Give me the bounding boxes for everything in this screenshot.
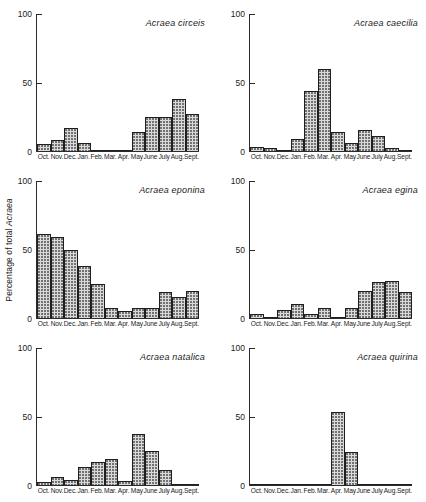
plot-area: 100500Oct.Nov.Dec.Jan.Feb.Mar.Apr.MayJun… bbox=[36, 348, 199, 486]
bar bbox=[331, 317, 345, 318]
bar bbox=[186, 291, 200, 318]
bar bbox=[345, 452, 359, 485]
bar bbox=[385, 281, 399, 318]
bar bbox=[358, 291, 372, 318]
bar-series bbox=[250, 14, 412, 151]
x-tick-label: Dec. bbox=[64, 321, 77, 328]
x-tick-label: June bbox=[357, 488, 371, 495]
y-tick-label-100: 100 bbox=[18, 177, 32, 186]
bar bbox=[186, 114, 200, 151]
bar bbox=[118, 311, 132, 318]
bar bbox=[159, 117, 173, 151]
x-tick-label: Jan. bbox=[290, 154, 303, 161]
x-tick-label: May bbox=[343, 154, 356, 161]
bar bbox=[358, 130, 372, 151]
x-axis-line bbox=[36, 318, 199, 319]
bar bbox=[132, 132, 146, 151]
x-axis-line bbox=[36, 485, 199, 486]
bar bbox=[385, 484, 399, 485]
bar bbox=[37, 482, 51, 485]
bar bbox=[291, 139, 305, 151]
x-tick-label: Aug. bbox=[171, 488, 184, 495]
x-tick-label: Oct. bbox=[250, 488, 263, 495]
bar bbox=[78, 467, 92, 485]
y-tick-label-50: 50 bbox=[236, 413, 245, 422]
x-tick-label: Dec. bbox=[64, 154, 77, 161]
y-tick-label-50: 50 bbox=[23, 246, 32, 255]
bar bbox=[372, 484, 386, 485]
y-tick-label-100: 100 bbox=[231, 344, 245, 353]
y-tick-label-0: 0 bbox=[27, 315, 32, 324]
bar bbox=[331, 412, 345, 485]
x-tick-label: Nov. bbox=[50, 488, 63, 495]
x-tick-label: Jan. bbox=[77, 488, 90, 495]
bar bbox=[277, 310, 291, 318]
bar bbox=[250, 484, 264, 485]
bar bbox=[277, 150, 291, 151]
x-axis-labels: Oct.Nov.Dec.Jan.Feb.Mar.Apr.MayJuneJulyA… bbox=[37, 488, 199, 495]
x-tick-label: Feb. bbox=[303, 488, 316, 495]
x-tick-label: Oct. bbox=[37, 154, 50, 161]
x-tick-label: Mar. bbox=[104, 488, 117, 495]
bar bbox=[105, 308, 119, 318]
x-tick-label: May bbox=[130, 488, 143, 495]
bar bbox=[145, 308, 159, 318]
x-tick-label: Apr. bbox=[117, 321, 130, 328]
x-tick-label: Sept. bbox=[397, 154, 412, 161]
bar bbox=[159, 470, 173, 485]
bar bbox=[318, 484, 332, 485]
x-tick-label: Jan. bbox=[290, 488, 303, 495]
bar bbox=[37, 234, 51, 318]
x-tick-label: Dec. bbox=[64, 488, 77, 495]
x-tick-label: June bbox=[357, 154, 371, 161]
bar bbox=[372, 282, 386, 318]
plot-area: 100500Oct.Nov.Dec.Jan.Feb.Mar.Apr.MayJun… bbox=[249, 181, 412, 319]
bar bbox=[145, 451, 159, 485]
bar-series bbox=[37, 181, 199, 318]
plot-area: 100500Oct.Nov.Dec.Jan.Feb.Mar.Apr.MayJun… bbox=[36, 181, 199, 319]
bar bbox=[172, 484, 186, 485]
x-tick-label: Sept. bbox=[184, 154, 199, 161]
x-tick-label: Jan. bbox=[77, 154, 90, 161]
bar bbox=[385, 148, 399, 151]
x-tick-label: Aug. bbox=[171, 321, 184, 328]
bar bbox=[304, 91, 318, 151]
bar bbox=[345, 143, 359, 151]
bar bbox=[318, 308, 332, 318]
panel-acraea-natalica: Acraea natalica100500Oct.Nov.Dec.Jan.Feb… bbox=[0, 334, 213, 501]
x-tick-label: Nov. bbox=[50, 154, 63, 161]
bar bbox=[64, 250, 78, 319]
x-tick-label: June bbox=[144, 154, 158, 161]
x-axis-labels: Oct.Nov.Dec.Jan.Feb.Mar.Apr.MayJuneJulyA… bbox=[250, 488, 412, 495]
bar bbox=[345, 308, 359, 318]
bar bbox=[105, 459, 119, 485]
x-tick-label: Dec. bbox=[277, 154, 290, 161]
x-tick-label: May bbox=[343, 488, 356, 495]
x-tick-label: Nov. bbox=[263, 488, 276, 495]
x-tick-label: Sept. bbox=[184, 321, 199, 328]
x-tick-label: Feb. bbox=[303, 321, 316, 328]
panel-acraea-quirina: Acraea quirina100500Oct.Nov.Dec.Jan.Feb.… bbox=[213, 334, 426, 501]
x-tick-label: Dec. bbox=[277, 321, 290, 328]
bar-series bbox=[37, 348, 199, 485]
x-tick-label: Mar. bbox=[317, 488, 330, 495]
x-tick-label: Jan. bbox=[77, 321, 90, 328]
x-tick-label: Apr. bbox=[117, 154, 130, 161]
x-tick-label: Nov. bbox=[263, 154, 276, 161]
bar bbox=[91, 284, 105, 318]
y-tick-label-100: 100 bbox=[231, 177, 245, 186]
bar-series bbox=[250, 348, 412, 485]
x-tick-label: June bbox=[144, 321, 158, 328]
bar bbox=[250, 147, 264, 151]
bar bbox=[399, 150, 413, 151]
x-axis-line bbox=[36, 151, 199, 152]
x-tick-label: Aug. bbox=[384, 154, 397, 161]
y-tick-label-50: 50 bbox=[236, 79, 245, 88]
y-tick-label-50: 50 bbox=[23, 79, 32, 88]
panel-acraea-eponina: Acraea eponina100500Oct.Nov.Dec.Jan.Feb.… bbox=[0, 167, 213, 334]
x-tick-label: July bbox=[157, 488, 170, 495]
x-tick-label: July bbox=[370, 321, 383, 328]
x-tick-label: Sept. bbox=[397, 488, 412, 495]
x-tick-label: Dec. bbox=[277, 488, 290, 495]
x-tick-label: Aug. bbox=[384, 488, 397, 495]
